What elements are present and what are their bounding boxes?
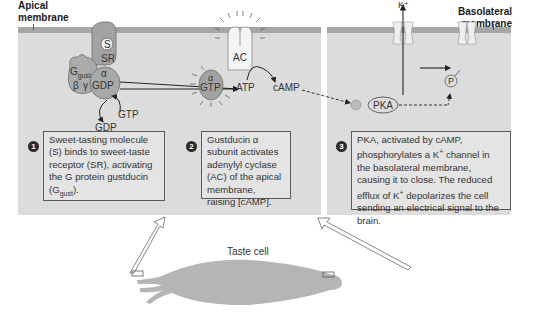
ac-label: AC xyxy=(233,52,247,63)
atp-to-camp-arrow xyxy=(247,67,275,83)
step-2-badge: 2 xyxy=(186,141,197,152)
callout-apical-pointer xyxy=(130,217,165,273)
g-protein-label: Ggust xyxy=(70,66,91,81)
step-1-badge: 1 xyxy=(28,141,39,152)
step-2-box: Gustducin α subunit activates adenylyl c… xyxy=(201,131,291,199)
gdp-bound-label: GDP xyxy=(92,80,114,91)
potassium-label: K⁺ xyxy=(398,0,409,11)
step-1-box: Sweet-tasting molecule (S) binds to swee… xyxy=(43,131,165,201)
gamma-label: γ xyxy=(83,80,88,91)
step-1-text: Sweet-tasting molecule (S) binds to swee… xyxy=(49,134,152,195)
gtp-bound-label: GTP xyxy=(200,82,221,93)
alpha-label: α xyxy=(101,68,107,79)
taste-cell-body xyxy=(137,260,342,305)
pka-label: PKA xyxy=(373,100,393,111)
step-1-text-end: ). xyxy=(73,184,79,195)
step-3-badge: 3 xyxy=(336,141,347,152)
g-protein-main: G xyxy=(70,66,78,77)
taste-cell-label: Taste cell xyxy=(227,246,269,257)
sweet-receptor-label: SR xyxy=(101,53,115,64)
step-3-box: PKA, activated by cAMP, phosphorylates a… xyxy=(351,131,511,210)
camp-to-pka-arrow xyxy=(302,90,350,103)
step-1-sub: gust xyxy=(60,190,73,197)
sweet-molecule-label: S xyxy=(104,39,111,50)
phosphate-label: P xyxy=(448,76,454,87)
gdp-release-arrow xyxy=(99,100,107,122)
k-channel-closed xyxy=(458,22,476,44)
camp-label: cAMP xyxy=(273,82,300,93)
g-protein-sub: gust xyxy=(78,72,91,79)
gtp-incoming-label: GTP xyxy=(118,109,139,120)
beta-label: β xyxy=(73,80,79,91)
atp-label: ATP xyxy=(236,82,255,93)
pka-regulatory-shape xyxy=(351,100,361,110)
